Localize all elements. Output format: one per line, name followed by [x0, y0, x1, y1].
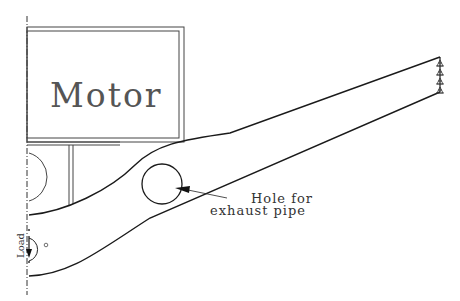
bracket-lower-edge [29, 92, 440, 276]
motor-label: Motor [50, 76, 163, 115]
hole-note-line2: exhaust pipe [210, 203, 306, 218]
leader-arrowhead-icon [175, 186, 190, 193]
load-label: Load [15, 232, 26, 258]
bracket-diagram: Motor Hole for exhaust pipe Load [0, 0, 460, 301]
exhaust-hole [142, 164, 182, 204]
load-arrow-icon [26, 249, 32, 258]
hole-leader-line [188, 190, 227, 198]
load-indicator [26, 229, 48, 263]
shaft-half-circle [29, 153, 47, 201]
